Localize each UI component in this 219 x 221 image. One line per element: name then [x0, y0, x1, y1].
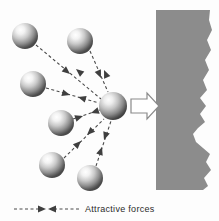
attractive-forces-figure: Attractive forces [0, 0, 219, 221]
molecule-4 [48, 110, 74, 136]
molecule-1 [12, 23, 38, 49]
molecule-6 [77, 165, 103, 191]
legend-label: Attractive forces [85, 203, 155, 215]
molecule-2 [67, 28, 93, 54]
diagram-canvas [0, 0, 219, 221]
molecule-3 [20, 71, 46, 97]
molecule-5 [39, 152, 65, 178]
molecule-center [99, 92, 127, 120]
